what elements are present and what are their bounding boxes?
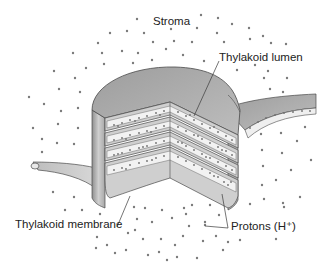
label-thylakoid-lumen: Thylakoid lumen bbox=[219, 52, 303, 64]
thylakoid-diagram: Stroma Thylakoid lumen Thylakoid membran… bbox=[0, 0, 336, 275]
label-thylakoid-membrane: Thylakoid membrane bbox=[15, 219, 122, 231]
diagram-canvas bbox=[0, 0, 336, 275]
stroma-lamella-left bbox=[31, 162, 98, 190]
label-stroma: Stroma bbox=[153, 16, 190, 28]
label-protons: Protons (H⁺) bbox=[231, 221, 296, 233]
protons-leader-2 bbox=[205, 226, 228, 228]
granum-stack bbox=[92, 67, 311, 210]
